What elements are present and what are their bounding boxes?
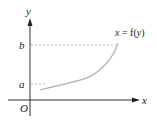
b-label: b [19,39,25,51]
curve-label: x = f(y) [114,27,145,39]
origin-label: O [20,102,28,114]
y-axis-label: y [25,5,31,17]
a-label: a [19,78,25,90]
curve-x-equals-f-y [40,43,118,90]
x-axis-label: x [141,94,147,106]
y-axis-arrow-icon [28,18,33,26]
x-axis-arrow-icon [132,98,140,103]
graph-diagram: y x O b a x = f(y) [0,0,157,127]
